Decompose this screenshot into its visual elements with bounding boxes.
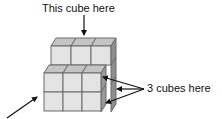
right-arrow-1 [103,77,144,89]
bottom-left-arrow [7,97,37,118]
front-block [44,65,106,112]
cube-diagram [0,0,222,119]
